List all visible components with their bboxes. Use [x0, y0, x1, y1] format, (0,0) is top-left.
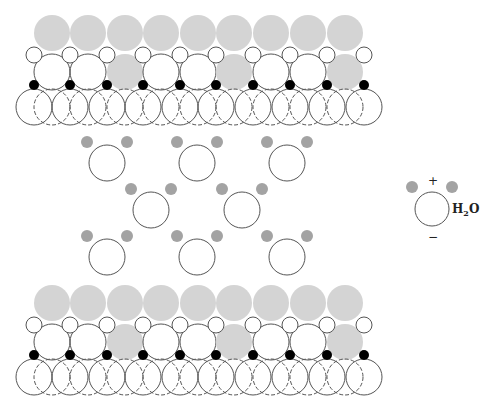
small-white-atom: [356, 47, 372, 63]
black-atom: [175, 350, 185, 360]
small-white-atom: [282, 47, 298, 63]
bottom-surface: [16, 285, 382, 395]
water-molecule: [125, 183, 177, 228]
gray-atom-top: [34, 285, 70, 321]
small-white-atom: [172, 47, 188, 63]
gray-atom-top: [34, 15, 70, 51]
hydrogen-atom: [171, 230, 183, 242]
small-white-atom: [99, 317, 115, 333]
black-atom: [29, 80, 39, 90]
oxygen-atom: [179, 239, 215, 275]
black-atom: [29, 350, 39, 360]
small-white-atom: [319, 47, 335, 63]
gray-atom-top: [290, 285, 326, 321]
black-atom: [322, 80, 332, 90]
water-molecule: [171, 136, 223, 181]
small-white-atom: [26, 317, 42, 333]
gray-atom-top: [107, 15, 143, 51]
small-white-atom: [245, 47, 261, 63]
black-atom: [102, 80, 112, 90]
hydrogen-atom: [211, 136, 223, 148]
hydrogen-atom: [81, 230, 93, 242]
small-white-atom: [62, 47, 78, 63]
small-white-atom: [208, 47, 224, 63]
hydrogen-atom: [216, 183, 228, 195]
hydrogen-atom: [301, 230, 313, 242]
oxygen-atom: [133, 192, 169, 228]
gray-atom-top: [143, 285, 179, 321]
gray-atom-top: [180, 15, 216, 51]
hydrogen-atom: [121, 230, 133, 242]
gray-atom-top: [290, 15, 326, 51]
hydrogen-atom: [121, 136, 133, 148]
black-atom: [65, 80, 75, 90]
legend-hydrogen-atom: [406, 181, 418, 193]
small-white-atom: [172, 317, 188, 333]
legend-plus-sign: +: [428, 175, 438, 187]
small-white-atom: [135, 47, 151, 63]
black-atom: [248, 350, 258, 360]
black-atom: [138, 350, 148, 360]
oxygen-atom: [269, 239, 305, 275]
small-white-atom: [282, 317, 298, 333]
black-atom: [211, 350, 221, 360]
hydrogen-atom: [261, 230, 273, 242]
small-white-atom: [135, 317, 151, 333]
small-white-atom: [26, 47, 42, 63]
black-atom: [322, 350, 332, 360]
black-atom: [359, 350, 369, 360]
legend-o-text: O: [469, 202, 479, 216]
black-atom: [65, 350, 75, 360]
hydrogen-atom: [81, 136, 93, 148]
water-molecule: [261, 230, 313, 275]
oxygen-atom: [224, 192, 260, 228]
black-atom: [175, 80, 185, 90]
hydrogen-atom: [171, 136, 183, 148]
legend-h-text: H: [452, 202, 463, 216]
gray-atom-top: [216, 15, 252, 51]
small-white-atom: [319, 317, 335, 333]
top-surface: [16, 15, 382, 125]
legend-oxygen-atom: [415, 192, 449, 226]
solid-atom-bottom: [346, 89, 382, 125]
gray-atom-top: [143, 15, 179, 51]
water-molecule: [261, 136, 313, 181]
gray-atom-top: [107, 285, 143, 321]
black-atom: [285, 350, 295, 360]
small-white-atom: [208, 317, 224, 333]
black-atom: [102, 350, 112, 360]
gray-atom-top: [70, 15, 106, 51]
oxygen-atom: [269, 145, 305, 181]
solid-atom-bottom: [346, 359, 382, 395]
oxygen-atom: [89, 145, 125, 181]
hydrogen-atom: [301, 136, 313, 148]
small-white-atom: [99, 47, 115, 63]
legend-hydrogen-atom: [446, 181, 458, 193]
water-molecule: [81, 230, 133, 275]
black-atom: [211, 80, 221, 90]
water-between-surfaces-diagram: [0, 0, 493, 410]
legend-minus-sign: −: [428, 231, 438, 243]
water-molecule: [81, 136, 133, 181]
hydrogen-atom: [256, 183, 268, 195]
gray-atom-top: [327, 285, 363, 321]
small-white-atom: [356, 317, 372, 333]
oxygen-atom: [89, 239, 125, 275]
hydrogen-atom: [165, 183, 177, 195]
legend-h2o-label: H2O: [452, 202, 479, 218]
hydrogen-atom: [261, 136, 273, 148]
black-atom: [138, 80, 148, 90]
black-atom: [248, 80, 258, 90]
water-molecule: [216, 183, 268, 228]
gray-atom-top: [180, 285, 216, 321]
small-white-atom: [62, 317, 78, 333]
oxygen-atom: [179, 145, 215, 181]
small-white-atom: [245, 317, 261, 333]
gray-atom-top: [70, 285, 106, 321]
black-atom: [359, 80, 369, 90]
gray-atom-top: [253, 15, 289, 51]
hydrogen-atom: [125, 183, 137, 195]
hydrogen-atom: [211, 230, 223, 242]
water-molecule: [171, 230, 223, 275]
gray-atom-top: [253, 285, 289, 321]
